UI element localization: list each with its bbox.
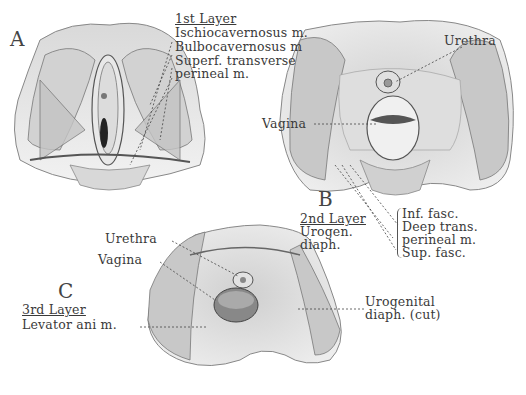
panel-c-urethra-label: Urethra — [105, 232, 157, 245]
panel-c-layer-title: 3rd Layer — [22, 303, 86, 316]
panel-b-letter: B — [318, 188, 333, 210]
perineum-layers-figure: A 1st Layer Ischiocavernosus m. Bulbocav… — [0, 0, 526, 395]
label-sup-fasc: Sup. fasc. — [402, 246, 466, 259]
panel-c-letter: C — [58, 280, 74, 302]
panel-c-vagina-label: Vagina — [98, 253, 142, 266]
panel-a-letter: A — [10, 28, 25, 50]
label-bulbocavernosus: Bulbocavernosus m — [175, 40, 302, 53]
panel-b-urethra-label: Urethra — [444, 34, 496, 47]
label-ischiocavernosus: Ischiocavernosus m. — [175, 26, 308, 39]
label-diaph-cut: diaph. (cut) — [365, 308, 441, 321]
panel-a-layer-title: 1st Layer — [175, 12, 236, 25]
panel-b-sub-2: diaph. — [300, 238, 341, 251]
label-perineal-m: perineal m. — [175, 67, 249, 80]
panel-b-vagina-label: Vagina — [262, 117, 306, 130]
label-levator-ani: Levator ani m. — [22, 318, 117, 331]
